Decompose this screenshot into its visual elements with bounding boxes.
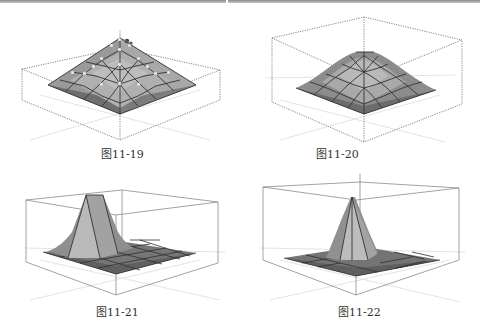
figure-11-22: 图11-22 — [240, 160, 480, 323]
pyramid-mesh-selected-image — [0, 0, 240, 160]
flat-grid-with-cone-spike-image — [240, 160, 480, 323]
figure-caption: 图11-19 — [101, 145, 144, 161]
smooth-bell-mesh-image — [240, 0, 480, 160]
figure-caption: 图11-20 — [316, 145, 359, 161]
figure-caption: 图11-22 — [338, 303, 381, 319]
flat-grid-with-bump-image — [0, 160, 240, 323]
figure-11-19: 图11-19 — [0, 0, 240, 160]
figure-11-21: 图11-21 — [0, 160, 240, 323]
figure-11-20: 图11-20 — [240, 0, 480, 160]
figure-caption: 图11-21 — [96, 303, 139, 319]
